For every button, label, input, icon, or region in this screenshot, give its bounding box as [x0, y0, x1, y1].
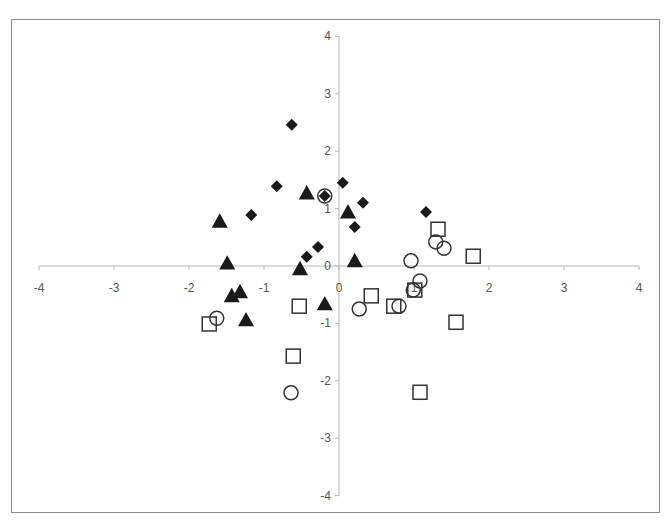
y-tick-label: 4: [324, 29, 331, 43]
diamond-marker: [312, 241, 324, 253]
x-tick-label: -1: [259, 281, 270, 295]
y-tick-label: 2: [324, 144, 331, 158]
circle-marker: [284, 386, 298, 400]
diamond-marker: [271, 180, 283, 192]
y-tick-label: 1: [324, 202, 331, 216]
diamond-marker: [349, 221, 361, 233]
triangle-marker: [347, 253, 363, 267]
square-marker: [449, 315, 463, 329]
y-tick-label: -4: [320, 489, 331, 503]
diamond-marker: [357, 197, 369, 209]
square-marker: [364, 289, 378, 303]
diamond-marker: [420, 206, 432, 218]
data-points: [202, 119, 480, 400]
square-marker: [431, 222, 445, 236]
axes: -4-3-2-101234-4-3-2-101234: [34, 29, 643, 502]
square-marker: [292, 299, 306, 313]
diamond-marker: [301, 251, 313, 263]
x-tick-label: -2: [184, 281, 195, 295]
x-tick-label: 3: [561, 281, 568, 295]
x-tick-label: -4: [34, 281, 45, 295]
triangle-marker: [340, 204, 356, 218]
triangle-marker: [299, 185, 315, 199]
y-tick-label: -1: [320, 316, 331, 330]
circle-marker: [352, 302, 366, 316]
diamond-marker: [245, 209, 257, 221]
square-marker: [466, 249, 480, 263]
square-marker: [413, 385, 427, 399]
square-marker: [286, 349, 300, 363]
x-tick-label: 2: [486, 281, 493, 295]
triangle-marker: [292, 261, 308, 275]
y-tick-label: -2: [320, 374, 331, 388]
triangle-marker: [238, 312, 254, 326]
circle-marker: [392, 299, 406, 313]
x-tick-label: -3: [109, 281, 120, 295]
y-tick-label: 0: [324, 259, 331, 273]
diamond-marker: [286, 119, 298, 131]
x-tick-label: 0: [336, 281, 343, 295]
y-tick-label: 3: [324, 87, 331, 101]
diamond-marker: [319, 190, 331, 202]
y-tick-label: -3: [320, 431, 331, 445]
scatter-plot: -4-3-2-101234-4-3-2-101234: [0, 0, 668, 525]
x-tick-label: 4: [636, 281, 643, 295]
triangle-marker: [317, 296, 333, 310]
triangle-marker: [212, 213, 228, 227]
triangle-marker: [219, 255, 235, 269]
